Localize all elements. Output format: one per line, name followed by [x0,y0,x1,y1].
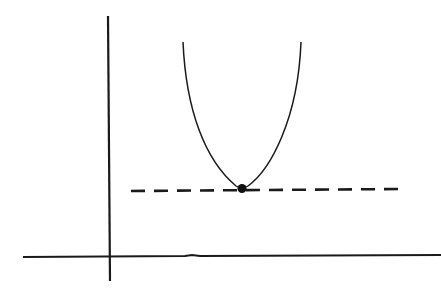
horizontal-tangent-line [131,189,401,191]
x-axis [23,255,441,257]
minimum-point-marker [238,184,247,193]
y-axis [108,16,110,281]
function-minimum-diagram [0,0,441,290]
parabola-curve [183,42,301,188]
